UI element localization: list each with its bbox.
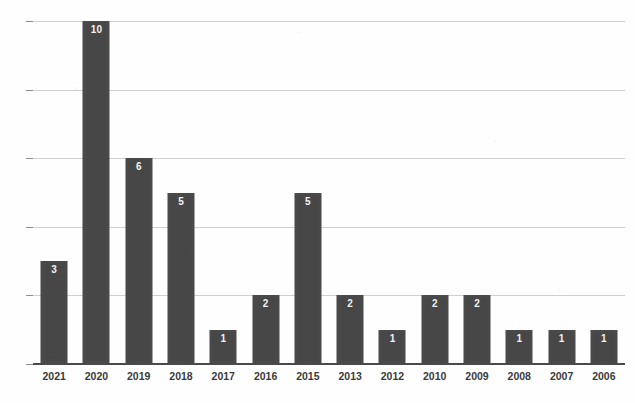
bar-value-label: 1 bbox=[379, 334, 406, 344]
bar[interactable]: 1 bbox=[590, 330, 617, 364]
x-axis-tick-label: 2017 bbox=[200, 371, 246, 382]
bar-chart: 0246810 310651252122111 2021202020192018… bbox=[0, 0, 635, 403]
bar-value-label: 5 bbox=[294, 197, 321, 207]
y-tick-mark-6 bbox=[26, 158, 33, 159]
bar-slot: 2 bbox=[329, 21, 371, 364]
y-tick-mark-8 bbox=[26, 90, 33, 91]
bar-value-label: 2 bbox=[337, 299, 364, 309]
x-axis-tick-label: 2009 bbox=[454, 371, 500, 382]
bar-slot: 1 bbox=[371, 21, 413, 364]
plot-area: 0246810 310651252122111 2021202020192018… bbox=[33, 21, 625, 364]
bar-slot: 2 bbox=[414, 21, 456, 364]
bar[interactable]: 6 bbox=[125, 158, 152, 364]
bar-slot: 1 bbox=[540, 21, 582, 364]
bar[interactable]: 1 bbox=[379, 330, 406, 364]
bar-slot: 2 bbox=[456, 21, 498, 364]
x-axis-tick-label: 2013 bbox=[327, 371, 373, 382]
y-tick-mark-4 bbox=[26, 227, 33, 228]
x-axis-tick-label: 2006 bbox=[581, 371, 627, 382]
x-axis-tick-label: 2019 bbox=[116, 371, 162, 382]
x-axis-tick-label: 2010 bbox=[412, 371, 458, 382]
x-axis-tick-label: 2007 bbox=[539, 371, 585, 382]
bar-value-label: 2 bbox=[463, 299, 490, 309]
bar-value-label: 2 bbox=[252, 299, 279, 309]
bar-value-label: 1 bbox=[506, 334, 533, 344]
bar-value-label: 3 bbox=[41, 265, 68, 275]
bar-slot: 5 bbox=[160, 21, 202, 364]
bar-value-label: 2 bbox=[421, 299, 448, 309]
y-tick-mark-10 bbox=[26, 21, 33, 22]
bar[interactable]: 2 bbox=[421, 295, 448, 364]
bar-slot: 2 bbox=[244, 21, 286, 364]
bar-slot: 1 bbox=[583, 21, 625, 364]
bar-value-label: 1 bbox=[548, 334, 575, 344]
bar[interactable]: 2 bbox=[337, 295, 364, 364]
bar-slot: 3 bbox=[33, 21, 75, 364]
x-axis-tick-label: 2008 bbox=[496, 371, 542, 382]
bar[interactable]: 10 bbox=[83, 21, 110, 364]
bar[interactable]: 3 bbox=[41, 261, 68, 364]
x-axis-tick-label: 2015 bbox=[285, 371, 331, 382]
bar[interactable]: 2 bbox=[463, 295, 490, 364]
x-axis-tick-label: 2018 bbox=[158, 371, 204, 382]
bar-value-label: 5 bbox=[167, 197, 194, 207]
bar-slot: 10 bbox=[75, 21, 117, 364]
bar[interactable]: 5 bbox=[294, 193, 321, 365]
y-tick-mark-2 bbox=[26, 295, 33, 296]
bar-value-label: 10 bbox=[83, 25, 110, 35]
bar-slot: 1 bbox=[202, 21, 244, 364]
bars-group: 310651252122111 bbox=[33, 21, 625, 364]
x-axis-tick-label: 2012 bbox=[369, 371, 415, 382]
bar-slot: 5 bbox=[287, 21, 329, 364]
x-axis-tick-label: 2021 bbox=[31, 371, 77, 382]
bar-value-label: 1 bbox=[210, 334, 237, 344]
bar[interactable]: 1 bbox=[506, 330, 533, 364]
bar-value-label: 6 bbox=[125, 162, 152, 172]
bar-value-label: 1 bbox=[590, 334, 617, 344]
bar-slot: 1 bbox=[498, 21, 540, 364]
bar-slot: 6 bbox=[118, 21, 160, 364]
y-tick-mark-0 bbox=[26, 364, 33, 365]
bar[interactable]: 2 bbox=[252, 295, 279, 364]
bar[interactable]: 5 bbox=[167, 193, 194, 365]
bar[interactable]: 1 bbox=[548, 330, 575, 364]
x-axis-tick-label: 2016 bbox=[243, 371, 289, 382]
x-axis-tick-label: 2020 bbox=[73, 371, 119, 382]
bar[interactable]: 1 bbox=[210, 330, 237, 364]
